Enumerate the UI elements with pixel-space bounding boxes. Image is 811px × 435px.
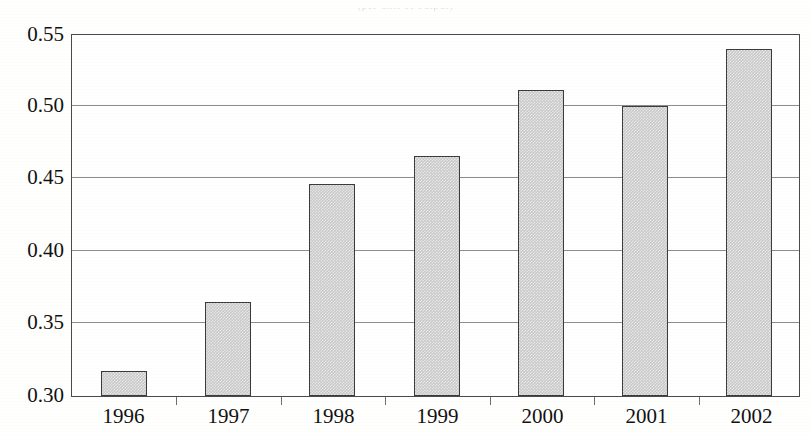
bar-2002 <box>726 49 772 396</box>
plot-area <box>71 34 800 397</box>
x-axis-label-2000: 2000 <box>490 404 595 428</box>
bar-1997 <box>205 302 251 396</box>
plot-inner <box>72 35 799 396</box>
y-axis-tick-label-5: 0.30 <box>6 385 64 406</box>
bar-chart-figure: (per unit of output) 0.55 0.50 0.45 0.40… <box>0 0 811 435</box>
y-axis-tick-label-4: 0.35 <box>6 312 64 333</box>
x-axis-label-1996: 1996 <box>71 404 176 428</box>
gridline-0.50 <box>72 105 799 106</box>
clipped-title-text: (per unit of output) <box>0 0 811 11</box>
y-axis-tick-label-2: 0.45 <box>6 167 64 188</box>
y-axis-tick-label-3: 0.40 <box>6 240 64 261</box>
x-axis-label-1998: 1998 <box>281 404 386 428</box>
bar-1999 <box>414 156 460 396</box>
x-axis-label-2002: 2002 <box>699 404 804 428</box>
y-axis-tick-label-1: 0.50 <box>6 95 64 116</box>
bar-1998 <box>309 184 355 396</box>
x-axis-label-1999: 1999 <box>385 404 490 428</box>
x-axis-label-1997: 1997 <box>176 404 281 428</box>
bar-1996 <box>101 371 147 396</box>
x-axis-label-2001: 2001 <box>594 404 699 428</box>
bar-2001 <box>622 106 668 396</box>
y-axis-tick-label-0: 0.55 <box>6 24 64 45</box>
bar-2000 <box>518 90 564 396</box>
